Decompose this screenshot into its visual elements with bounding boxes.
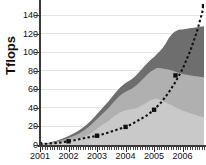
x-tick-minor — [92, 147, 93, 150]
x-tick-minor — [142, 147, 143, 150]
x-tick-minor — [99, 147, 100, 150]
x-tick-minor — [147, 147, 148, 150]
x-tick-minor — [197, 147, 198, 150]
x-tick-minor — [116, 147, 117, 150]
x-tick-minor — [42, 147, 43, 150]
x-tick-minor — [80, 147, 81, 150]
x-tick-label: 2006 — [163, 151, 203, 161]
x-tick-minor — [85, 147, 86, 150]
x-tick-minor — [137, 147, 138, 150]
x-tick-minor — [145, 147, 146, 150]
x-tick-minor — [176, 147, 177, 150]
plot-area — [40, 4, 204, 145]
x-tick-minor — [114, 147, 115, 150]
x-tick-minor — [202, 147, 203, 150]
x-tick-minor — [59, 147, 60, 150]
x-tick-minor — [78, 147, 79, 150]
x-tick-minor — [66, 147, 67, 150]
y-tick-mark — [34, 71, 40, 72]
x-tick-minor — [118, 147, 119, 150]
x-tick-minor — [199, 147, 200, 150]
y-tick-mark — [34, 15, 40, 16]
y-tick-mark — [34, 52, 40, 53]
y-tick-mark — [34, 89, 40, 90]
x-tick-minor — [171, 147, 172, 150]
x-tick-minor — [192, 147, 193, 150]
x-tick-minor — [204, 147, 205, 150]
x-tick-minor — [111, 147, 112, 150]
x-tick-minor — [73, 147, 74, 150]
x-axis-tick-labels: 200120022003200420052006 — [0, 151, 206, 165]
plot-svg — [40, 4, 204, 145]
x-tick-minor — [185, 147, 186, 150]
x-tick-minor — [90, 147, 91, 150]
y-axis-tick-labels: 020406080100120140 — [8, 0, 38, 150]
x-tick-minor — [166, 147, 167, 150]
x-tick-minor — [45, 147, 46, 150]
x-tick-minor — [195, 147, 196, 150]
x-tick-minor — [47, 147, 48, 150]
x-tick-minor — [71, 147, 72, 150]
x-tick-minor — [140, 147, 141, 150]
x-tick-minor — [61, 147, 62, 150]
x-tick-minor — [57, 147, 58, 150]
x-tick-minor — [190, 147, 191, 150]
x-tick-minor — [157, 147, 158, 150]
x-tick-minor — [109, 147, 110, 150]
x-tick-minor — [64, 147, 65, 150]
x-tick-minor — [107, 147, 108, 150]
y-axis-line — [39, 0, 41, 147]
x-tick-minor — [164, 147, 165, 150]
y-tick-mark — [34, 108, 40, 109]
x-tick-minor — [135, 147, 136, 150]
x-tick-minor — [121, 147, 122, 150]
x-tick-minor — [76, 147, 77, 150]
x-tick-minor — [50, 147, 51, 150]
x-tick-minor — [161, 147, 162, 150]
x-tick-minor — [133, 147, 134, 150]
x-tick-minor — [128, 147, 129, 150]
x-tick-minor — [88, 147, 89, 150]
x-tick-minor — [187, 147, 188, 150]
y-tick-mark — [34, 126, 40, 127]
x-tick-minor — [83, 147, 84, 150]
x-tick-minor — [102, 147, 103, 150]
x-tick-minor — [152, 147, 153, 150]
x-tick-minor — [95, 147, 96, 150]
stacked-areas — [40, 26, 204, 145]
x-tick-minor — [104, 147, 105, 150]
x-tick-minor — [123, 147, 124, 150]
x-tick-minor — [130, 147, 131, 150]
x-tick-minor — [52, 147, 53, 150]
x-tick-minor — [180, 147, 181, 150]
x-tick-minor — [178, 147, 179, 150]
y-tick-mark — [34, 145, 40, 146]
chart-container: Tflops 020406080100120140 20012002200320… — [0, 0, 206, 165]
x-tick-minor — [168, 147, 169, 150]
x-tick-minor — [54, 147, 55, 150]
x-tick-minor — [173, 147, 174, 150]
y-tick-mark — [34, 34, 40, 35]
x-tick-minor — [159, 147, 160, 150]
x-tick-minor — [149, 147, 150, 150]
